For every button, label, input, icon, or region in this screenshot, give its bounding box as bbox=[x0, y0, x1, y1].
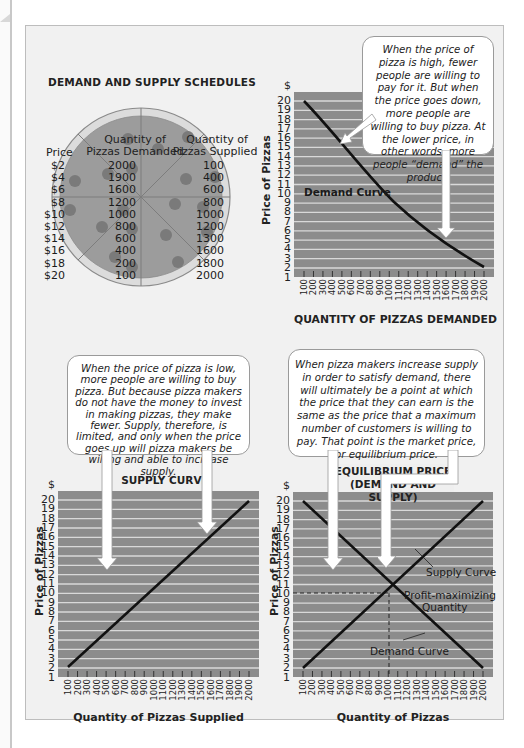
supply-arrow-left-icon bbox=[96, 450, 118, 572]
profit-maximizing-label-1: Profit-maximizing bbox=[404, 589, 496, 601]
supply-callout: When the price of pizza is low, more peo… bbox=[67, 355, 250, 455]
y-tick-label: 1 bbox=[36, 672, 55, 683]
supplied-cell: 1800 bbox=[184, 258, 224, 270]
x-tick-label: 400 bbox=[327, 279, 337, 307]
x-tick-label: 1500 bbox=[196, 679, 206, 707]
x-tick-label: 1200 bbox=[403, 279, 413, 307]
demand-label-leader bbox=[403, 633, 425, 640]
x-tick-label: 1700 bbox=[215, 679, 225, 707]
x-tick-label: 400 bbox=[326, 679, 336, 707]
y-tick-label: 1 bbox=[271, 672, 290, 683]
x-tick-label: 1600 bbox=[441, 279, 451, 307]
x-tick-label: 600 bbox=[346, 279, 356, 307]
header-supplied-line2: Pizzas Supplied bbox=[170, 146, 260, 158]
x-tick-label: 800 bbox=[365, 279, 375, 307]
price-cell: $18 bbox=[35, 258, 65, 270]
demand-y-axis-label: Price of Pizzas bbox=[260, 135, 273, 225]
equilibrium-callout: When pizza makers increase supply in ord… bbox=[288, 349, 485, 457]
x-tick-label: 600 bbox=[345, 679, 355, 707]
x-tick-label: 2000 bbox=[478, 679, 488, 707]
x-tick-label: 1400 bbox=[422, 279, 432, 307]
page-fold bbox=[0, 14, 10, 22]
profit-maximizing-label-2: Quantity bbox=[422, 601, 467, 613]
supplied-cell: 600 bbox=[184, 184, 224, 196]
equilibrium-demand-label: Demand Curve bbox=[370, 645, 449, 657]
x-tick-label: 800 bbox=[364, 679, 374, 707]
price-cell: $16 bbox=[35, 245, 65, 257]
demand-callout: When the price of pizza is high, fewer p… bbox=[362, 36, 494, 155]
supply-arrow-right-icon bbox=[196, 450, 218, 536]
x-tick-label: 200 bbox=[308, 279, 318, 307]
price-cell: $6 bbox=[35, 184, 65, 196]
x-tick-label: 300 bbox=[82, 679, 92, 707]
equilibrium-y-axis-label: Price of Pizzas bbox=[268, 526, 281, 616]
price-cell: $8 bbox=[35, 197, 65, 209]
x-tick-label: 1800 bbox=[459, 679, 469, 707]
supplied-cell: 2000 bbox=[184, 270, 224, 282]
y-tick-label: 1 bbox=[272, 272, 291, 283]
page-edge bbox=[0, 0, 12, 748]
supply-y-axis-label: Price of Pizzas bbox=[33, 526, 46, 616]
x-tick-label: 900 bbox=[139, 679, 149, 707]
demanded-cell: 200 bbox=[96, 258, 136, 270]
demand-curve-label: Demand Curve bbox=[304, 186, 391, 198]
y-tick-label: $ bbox=[271, 480, 290, 491]
y-tick-label: $ bbox=[272, 80, 291, 91]
demanded-cell: 1200 bbox=[96, 197, 136, 209]
y-tick-label: $ bbox=[36, 479, 55, 490]
supply-plot-svg bbox=[58, 491, 259, 677]
x-tick-label: 1200 bbox=[402, 679, 412, 707]
schedules-title: DEMAND AND SUPPLY SCHEDULES bbox=[48, 76, 256, 88]
x-tick-label: 100 bbox=[63, 679, 73, 707]
x-tick-label: 1900 bbox=[234, 679, 244, 707]
supplied-cell: 1600 bbox=[184, 245, 224, 257]
demand-arrow-down-icon bbox=[436, 150, 456, 240]
price-cell: $20 bbox=[35, 270, 65, 282]
x-tick-label: 2000 bbox=[244, 679, 254, 707]
x-tick-label: 1300 bbox=[177, 679, 187, 707]
equilibrium-arrow-left-icon bbox=[322, 450, 344, 572]
supplied-cell: 800 bbox=[184, 197, 224, 209]
demanded-cell: 1600 bbox=[96, 184, 136, 196]
x-tick-label: 1100 bbox=[158, 679, 168, 707]
x-tick-label: 1000 bbox=[384, 279, 394, 307]
x-tick-label: 700 bbox=[120, 679, 130, 707]
x-tick-label: 200 bbox=[307, 679, 317, 707]
supply-x-axis-label: Quantity of Pizzas Supplied bbox=[58, 711, 259, 724]
header-price: Price bbox=[46, 147, 73, 159]
equilibrium-x-axis-label: Quantity of Pizzas bbox=[293, 711, 493, 724]
x-tick-label: 1400 bbox=[421, 679, 431, 707]
x-tick-label: 1800 bbox=[460, 279, 470, 307]
x-tick-label: 1000 bbox=[383, 679, 393, 707]
demanded-cell: 400 bbox=[96, 245, 136, 257]
demand-arrow-left-icon bbox=[338, 110, 378, 150]
demanded-cell: 100 bbox=[96, 270, 136, 282]
x-tick-label: 500 bbox=[101, 679, 111, 707]
supply-plot-area bbox=[58, 491, 259, 677]
x-tick-label: 2000 bbox=[479, 279, 489, 307]
equilibrium-arrow-center-icon bbox=[378, 450, 462, 570]
demand-x-axis-label: QUANTITY OF PIZZAS DEMANDED bbox=[294, 313, 494, 326]
x-tick-label: 1600 bbox=[440, 679, 450, 707]
